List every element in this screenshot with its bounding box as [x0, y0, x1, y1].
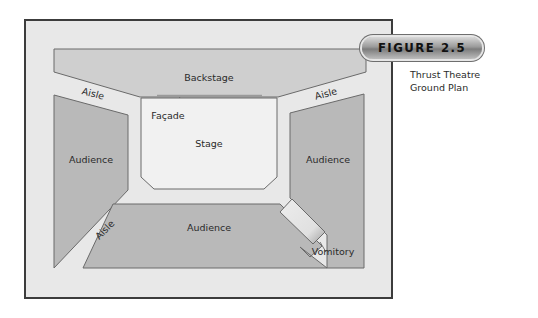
backstage-label: Backstage — [184, 72, 234, 83]
facade-label: Façade — [151, 110, 184, 121]
figure-badge: FIGURE 2.5 — [362, 37, 482, 59]
figure-number: FIGURE 2.5 — [362, 40, 482, 55]
figure-caption: Thrust Theatre Ground Plan — [410, 68, 520, 94]
caption-line-1: Thrust Theatre — [410, 68, 520, 81]
audience-bottom-label: Audience — [187, 222, 231, 233]
audience-left-label: Audience — [69, 154, 113, 165]
audience-right-label: Audience — [306, 154, 350, 165]
vomitory-label: Vomitory — [312, 246, 355, 257]
stage-label: Stage — [195, 138, 223, 149]
caption-line-2: Ground Plan — [410, 81, 520, 94]
